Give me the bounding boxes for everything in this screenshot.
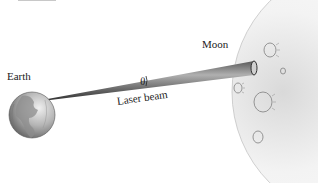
earth-label: Earth [7, 70, 31, 82]
moon [232, 0, 318, 183]
earth-globe [9, 92, 55, 138]
moon-label: Moon [202, 38, 228, 50]
earth-moon-laser-diagram: Earth Moon Laser beam θ [0, 0, 318, 183]
cutoff-caption-fragment [18, 0, 56, 1]
